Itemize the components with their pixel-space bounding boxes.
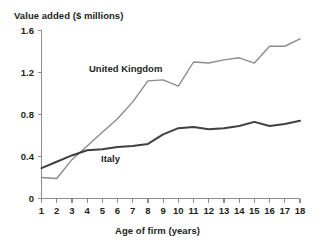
y-tick-label-1: 0.4	[8, 151, 34, 162]
x-axis-title: Age of firm (years)	[0, 225, 315, 236]
data-series-group	[42, 39, 301, 179]
x-tick-label-17: 18	[291, 205, 309, 216]
y-tick-label-4: 1.6	[8, 25, 34, 36]
chart-container: Value added ($ millions) Age of firm (ye…	[0, 0, 315, 245]
y-tick-label-3: 1.2	[8, 67, 34, 78]
series-label-united-kingdom: United Kingdom	[89, 63, 162, 74]
y-tick-label-0: 0	[8, 193, 34, 204]
y-axis-title: Value added ($ millions)	[14, 10, 123, 21]
y-tick-label-2: 0.8	[8, 109, 34, 120]
series-line-italy	[42, 121, 301, 168]
series-line-united-kingdom	[42, 39, 301, 179]
series-label-italy: Italy	[101, 153, 120, 164]
